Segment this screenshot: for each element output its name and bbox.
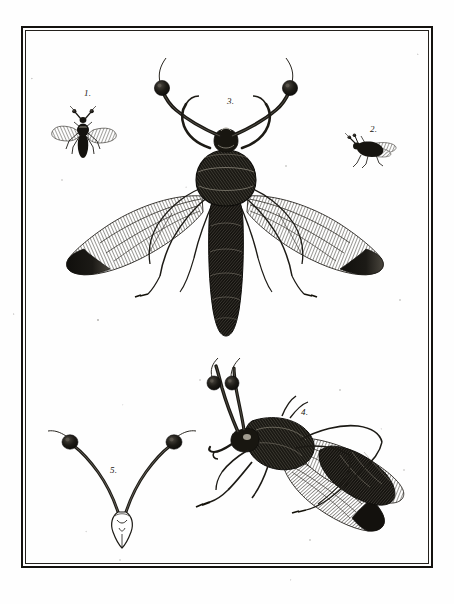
figure-label-1: 1. — [84, 89, 91, 98]
figure-label-5: 5. — [110, 466, 117, 475]
figure-label-4: 4. — [301, 408, 308, 417]
figure-label-2: 2. — [370, 125, 377, 134]
plate-frame-inner-rule — [25, 30, 429, 564]
engraved-plate: 1. 2. 3. 4. 5. — [0, 0, 454, 604]
figure-label-3: 3. — [227, 97, 234, 106]
